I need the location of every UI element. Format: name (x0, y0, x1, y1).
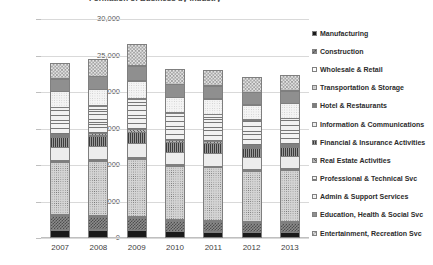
bar-segment[interactable] (127, 230, 147, 238)
bar-segment[interactable] (88, 161, 108, 216)
bar-column[interactable] (88, 60, 108, 238)
legend-item[interactable]: Hotel & Restaurants (312, 97, 433, 115)
bar-segment[interactable] (165, 142, 185, 153)
x-axis-label: 2012 (233, 243, 271, 252)
y-axis-tick (36, 19, 41, 20)
bar-segment[interactable] (242, 157, 262, 170)
legend-item[interactable]: Education, Health & Social Svc (312, 206, 433, 224)
legend-item[interactable]: Entertainment, Recreation Svc (312, 224, 433, 242)
bar-segment[interactable] (127, 218, 147, 230)
bar-segment[interactable] (280, 156, 300, 169)
bar-segment[interactable] (88, 230, 108, 238)
bar-segment[interactable] (165, 166, 185, 220)
bar-column[interactable] (203, 71, 223, 238)
bar-segment[interactable] (165, 152, 185, 166)
legend-item[interactable]: Financial & Insurance Activities (312, 133, 433, 151)
legend-item-label: Financial & Insurance Activities (320, 139, 425, 146)
legend-item-label: Entertainment, Recreation Svc (320, 230, 422, 237)
bar-segment[interactable] (203, 232, 223, 238)
bar-segment[interactable] (203, 167, 223, 221)
bar-segment[interactable] (127, 81, 147, 100)
bar-segment[interactable] (50, 79, 70, 92)
bar-segment[interactable] (50, 107, 70, 135)
y-axis-tick (36, 92, 41, 93)
bar-segment[interactable] (203, 70, 223, 86)
bar-segment[interactable] (88, 106, 108, 134)
bar-segment[interactable] (242, 120, 262, 147)
bar-segment[interactable] (280, 103, 300, 119)
bar-segment[interactable] (242, 92, 262, 105)
bar-segment[interactable] (203, 86, 223, 100)
bar-segment[interactable] (203, 222, 223, 233)
y-axis-tick (36, 238, 41, 239)
bar-segment[interactable] (127, 66, 147, 81)
legend-swatch-icon (312, 194, 317, 199)
legend-swatch-icon (312, 67, 317, 72)
bar-segment[interactable] (88, 217, 108, 231)
bar-segment[interactable] (50, 162, 70, 215)
bar-segment[interactable] (280, 232, 300, 238)
bar-segment[interactable] (88, 76, 108, 90)
bar-segment[interactable] (165, 231, 185, 238)
bar-segment[interactable] (165, 221, 185, 232)
bar-segment[interactable] (242, 171, 262, 222)
bar-segment[interactable] (88, 59, 108, 77)
bar-segment[interactable] (165, 69, 185, 85)
bar-segment[interactable] (280, 91, 300, 104)
legend-item[interactable]: Transportation & Storage (312, 79, 433, 97)
bar-column[interactable] (165, 70, 185, 238)
y-axis-tick (36, 202, 41, 203)
legend-item[interactable]: Professional & Technical Svc (312, 170, 433, 188)
bar-segment[interactable] (127, 99, 147, 130)
bar-segment[interactable] (127, 143, 147, 158)
bar-segment[interactable] (165, 113, 185, 141)
legend-item[interactable]: Wholesale & Retail (312, 60, 433, 78)
legend-item-label: Wholesale & Retail (320, 66, 383, 73)
legend-item-label: Hotel & Restaurants (320, 102, 387, 109)
bar-segment[interactable] (50, 137, 70, 148)
legend-item-label: Manufacturing (320, 30, 368, 37)
bar-segment[interactable] (280, 118, 300, 145)
bar-segment[interactable] (127, 159, 147, 217)
bar-segment[interactable] (50, 63, 70, 79)
legend-swatch-icon (312, 176, 317, 181)
legend-item[interactable]: Manufacturing (312, 24, 433, 42)
plot-area (41, 19, 309, 238)
bar-column[interactable] (280, 76, 300, 239)
bar-segment[interactable] (50, 147, 70, 161)
bar-column[interactable] (127, 44, 147, 238)
legend-item-label: Construction (320, 48, 364, 55)
bar-segment[interactable] (88, 89, 108, 106)
gridline (41, 56, 309, 57)
legend-item-label: Admin & Support Services (320, 193, 408, 200)
legend-item[interactable]: Construction (312, 42, 433, 60)
bar-segment[interactable] (242, 232, 262, 238)
bar-segment[interactable] (50, 230, 70, 238)
y-axis-tick (36, 56, 41, 57)
bar-segment[interactable] (242, 77, 262, 93)
legend-item[interactable]: Real Estate Activities (312, 151, 433, 169)
bar-segment[interactable] (127, 44, 147, 67)
bar-segment[interactable] (203, 114, 223, 142)
bar-segment[interactable] (203, 153, 223, 166)
legend-item[interactable]: Information & Communications (312, 115, 433, 133)
bar-segment[interactable] (165, 97, 185, 113)
legend-swatch-icon (312, 31, 317, 36)
bar-segment[interactable] (88, 136, 108, 147)
bar-segment[interactable] (280, 75, 300, 91)
bar-segment[interactable] (242, 105, 262, 121)
bar-segment[interactable] (203, 99, 223, 115)
bar-column[interactable] (50, 63, 70, 238)
bar-segment[interactable] (50, 216, 70, 230)
x-axis-label: 2011 (194, 243, 232, 252)
bar-segment[interactable] (203, 143, 223, 154)
legend-swatch-icon (312, 49, 317, 54)
legend-item[interactable]: Admin & Support Services (312, 188, 433, 206)
bar-column[interactable] (242, 78, 262, 238)
bar-segment[interactable] (88, 146, 108, 160)
bar-segment[interactable] (50, 91, 70, 108)
bar-segment[interactable] (165, 84, 185, 98)
bar-segment[interactable] (127, 132, 147, 144)
legend-item-label: Education, Health & Social Svc (320, 211, 423, 218)
bar-segment[interactable] (280, 170, 300, 221)
